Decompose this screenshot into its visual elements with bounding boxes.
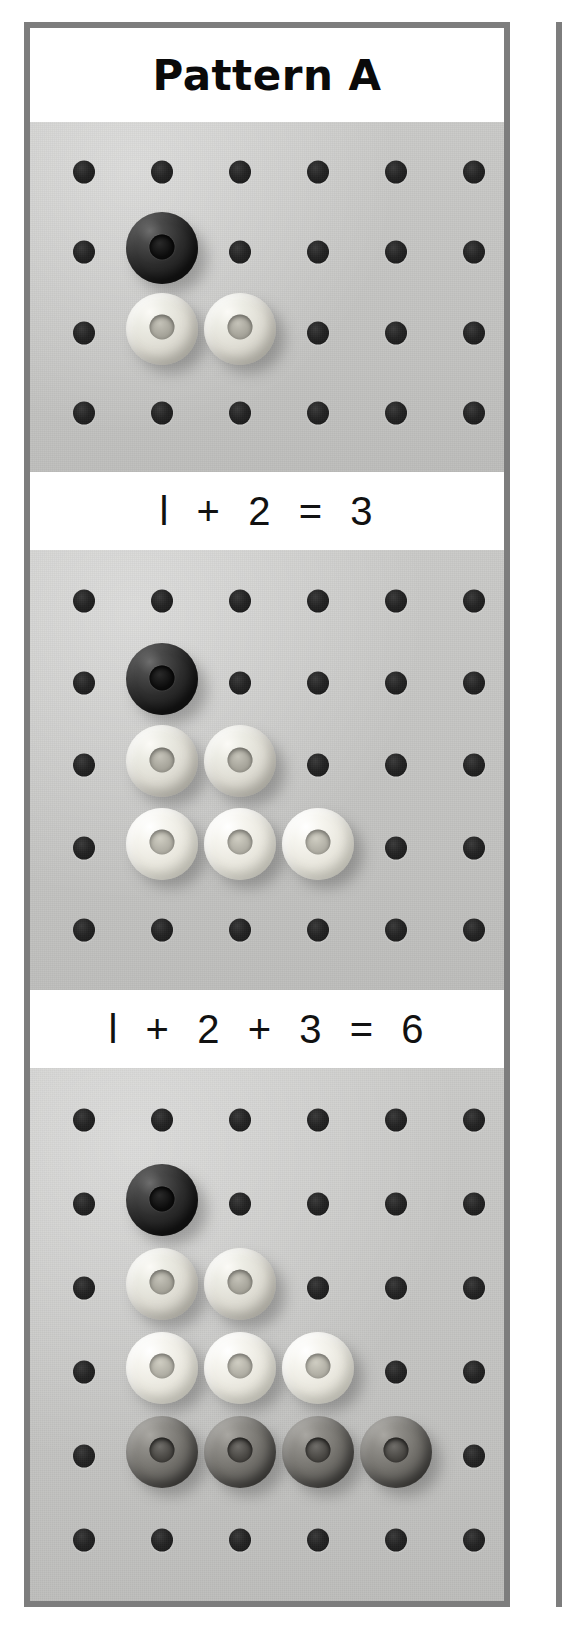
- bead-dark[interactable]: [126, 1164, 198, 1236]
- peg-hole: [229, 918, 251, 941]
- bead-center-hole: [384, 1438, 409, 1463]
- bead-pale[interactable]: [282, 1332, 354, 1404]
- equation-band-1: l + 2 = 3: [30, 472, 504, 550]
- peg-hole: [385, 1109, 407, 1132]
- equation-1: l + 2 = 3: [159, 489, 374, 534]
- bead-medium[interactable]: [360, 1416, 432, 1488]
- bead-center-hole: [228, 830, 253, 855]
- bead-dark[interactable]: [126, 643, 198, 715]
- bead-center-hole: [228, 748, 253, 773]
- peg-hole: [385, 241, 407, 264]
- bead-medium[interactable]: [126, 1416, 198, 1488]
- bead-pale[interactable]: [204, 808, 276, 880]
- peg-hole: [229, 1528, 251, 1551]
- pegboard-step-3: [30, 1068, 504, 1601]
- bead-light[interactable]: [204, 725, 276, 797]
- peg-hole: [307, 918, 329, 941]
- bead-pale[interactable]: [282, 808, 354, 880]
- peg-hole: [307, 1192, 329, 1215]
- peg-hole: [463, 836, 485, 859]
- bead-pale[interactable]: [126, 808, 198, 880]
- bead-light[interactable]: [126, 1248, 198, 1320]
- peg-hole: [463, 918, 485, 941]
- peg-hole: [73, 1444, 95, 1467]
- peg-hole: [73, 589, 95, 612]
- peg-hole: [385, 402, 407, 425]
- bead-dark[interactable]: [126, 212, 198, 284]
- bead-medium[interactable]: [204, 1416, 276, 1488]
- peg-hole: [307, 672, 329, 695]
- peg-hole: [151, 160, 173, 183]
- peg-hole: [463, 754, 485, 777]
- peg-hole: [229, 160, 251, 183]
- peg-hole: [463, 402, 485, 425]
- peg-hole: [73, 1528, 95, 1551]
- peg-hole: [385, 918, 407, 941]
- peg-hole: [73, 241, 95, 264]
- bead-center-hole: [150, 665, 175, 690]
- peg-hole: [463, 1360, 485, 1383]
- peg-hole: [229, 672, 251, 695]
- peg-hole: [307, 160, 329, 183]
- peg-hole: [73, 402, 95, 425]
- bead-pale[interactable]: [204, 1332, 276, 1404]
- page-root: Pattern A l + 2 = 3 l + 2 + 3 = 6: [0, 0, 570, 1643]
- peg-hole: [385, 1276, 407, 1299]
- peg-hole: [385, 589, 407, 612]
- peg-hole: [463, 672, 485, 695]
- peg-hole: [151, 918, 173, 941]
- peg-hole: [463, 1192, 485, 1215]
- pattern-card: Pattern A l + 2 = 3 l + 2 + 3 = 6: [24, 22, 510, 1607]
- peg-hole: [229, 402, 251, 425]
- bead-center-hole: [228, 315, 253, 340]
- pegboard-step-1: [30, 122, 504, 472]
- bead-center-hole: [228, 1354, 253, 1379]
- bead-light[interactable]: [126, 725, 198, 797]
- peg-hole: [229, 1192, 251, 1215]
- peg-hole: [463, 1444, 485, 1467]
- bead-light[interactable]: [204, 1248, 276, 1320]
- bead-center-hole: [306, 830, 331, 855]
- bead-center-hole: [306, 1438, 331, 1463]
- bead-pale[interactable]: [126, 1332, 198, 1404]
- bead-center-hole: [150, 1186, 175, 1211]
- page-title: Pattern A: [153, 51, 382, 100]
- peg-hole: [307, 589, 329, 612]
- peg-hole: [385, 1360, 407, 1383]
- peg-hole: [73, 321, 95, 344]
- peg-hole: [307, 1276, 329, 1299]
- peg-hole: [73, 1192, 95, 1215]
- peg-hole: [307, 1528, 329, 1551]
- bead-center-hole: [150, 830, 175, 855]
- peg-hole: [385, 672, 407, 695]
- bead-light[interactable]: [126, 293, 198, 365]
- bead-center-hole: [150, 315, 175, 340]
- bead-center-hole: [150, 1438, 175, 1463]
- peg-hole: [463, 1528, 485, 1551]
- peg-hole: [73, 918, 95, 941]
- peg-hole: [463, 1276, 485, 1299]
- peg-hole: [307, 754, 329, 777]
- equation-2: l + 2 + 3 = 6: [108, 1007, 425, 1052]
- bead-center-hole: [306, 1354, 331, 1379]
- bead-light[interactable]: [204, 293, 276, 365]
- peg-hole: [385, 836, 407, 859]
- peg-hole: [463, 321, 485, 344]
- peg-hole: [73, 160, 95, 183]
- peg-hole: [307, 241, 329, 264]
- peg-hole: [151, 402, 173, 425]
- bead-center-hole: [228, 1438, 253, 1463]
- peg-hole: [307, 321, 329, 344]
- peg-hole: [463, 1109, 485, 1132]
- peg-hole: [151, 1528, 173, 1551]
- peg-hole: [385, 160, 407, 183]
- peg-hole: [73, 1276, 95, 1299]
- peg-hole: [73, 836, 95, 859]
- peg-hole: [73, 1360, 95, 1383]
- bead-medium[interactable]: [282, 1416, 354, 1488]
- peg-hole: [385, 1528, 407, 1551]
- peg-hole: [385, 754, 407, 777]
- peg-hole: [151, 589, 173, 612]
- bead-center-hole: [150, 748, 175, 773]
- peg-hole: [385, 1192, 407, 1215]
